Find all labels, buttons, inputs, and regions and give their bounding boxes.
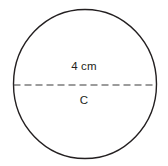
circle-diagram: 4 cm C (0, 0, 168, 166)
diameter-label: 4 cm (0, 61, 168, 73)
circle-outline (14, 10, 157, 159)
circumference-label: C (0, 95, 168, 107)
figure-canvas (0, 0, 168, 166)
